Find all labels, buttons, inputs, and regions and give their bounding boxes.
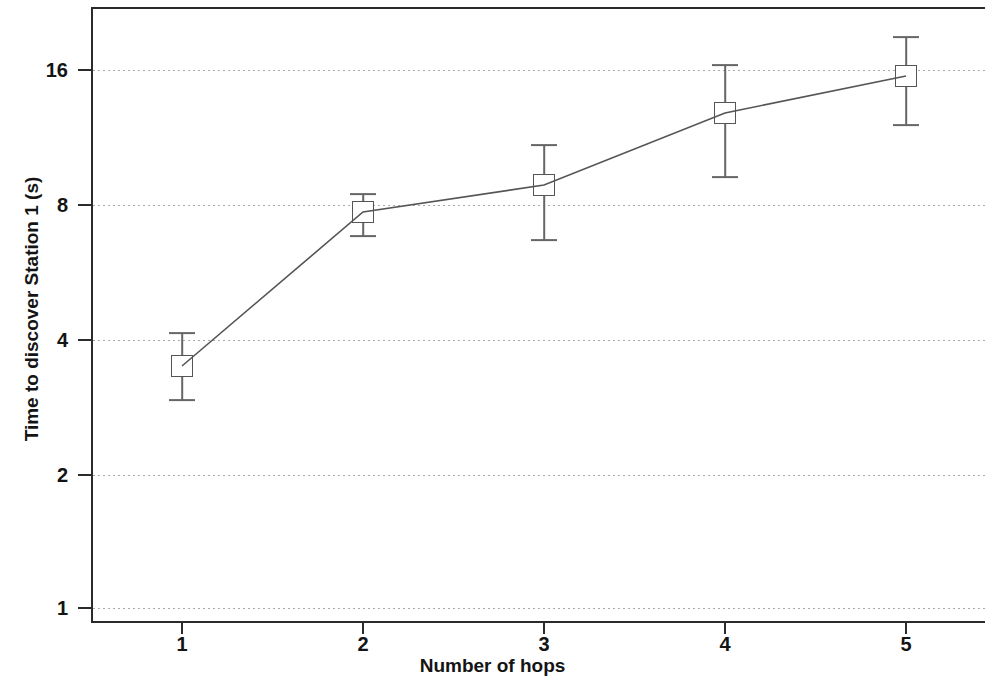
data-point-marker (171, 355, 193, 377)
y-tick-mark (78, 474, 91, 476)
data-point-marker (895, 65, 917, 87)
gridline-y (93, 475, 985, 476)
plot-top-border (91, 7, 985, 9)
x-tick-label: 2 (333, 633, 393, 656)
error-bar-cap-lower (169, 399, 195, 401)
chart-figure: Time to discover Station 1 (s) 168421 12… (0, 0, 985, 683)
gridline-y (93, 340, 985, 341)
series-line-svg (0, 0, 985, 683)
x-tick-label: 5 (876, 633, 936, 656)
y-tick-mark (78, 607, 91, 609)
data-point-marker (533, 174, 555, 196)
data-point-marker (352, 201, 374, 223)
error-bar-cap-upper (712, 64, 738, 66)
y-tick-mark (78, 339, 91, 341)
y-tick-label: 16 (10, 59, 68, 82)
data-point-marker (714, 102, 736, 124)
y-axis-line (91, 7, 93, 623)
y-tick-label: 4 (10, 329, 68, 352)
y-tick-label: 8 (10, 194, 68, 217)
x-tick-label: 3 (514, 633, 574, 656)
gridline-y (93, 70, 985, 71)
x-axis-line (91, 621, 985, 623)
error-bar-cap-upper (893, 36, 919, 38)
y-tick-mark (78, 69, 91, 71)
error-bar-cap-lower (712, 176, 738, 178)
gridline-y (93, 608, 985, 609)
x-axis-title: Number of hops (0, 655, 985, 677)
error-bar-cap-lower (531, 239, 557, 241)
y-tick-label: 1 (10, 597, 68, 620)
error-bar-cap-lower (893, 124, 919, 126)
error-bar-cap-lower (350, 235, 376, 237)
x-tick-label: 1 (152, 633, 212, 656)
x-tick-label: 4 (695, 633, 755, 656)
y-tick-mark (78, 204, 91, 206)
y-tick-label: 2 (10, 464, 68, 487)
error-bar-cap-upper (350, 193, 376, 195)
error-bar-cap-upper (169, 332, 195, 334)
error-bar-cap-upper (531, 144, 557, 146)
gridline-y (93, 205, 985, 206)
